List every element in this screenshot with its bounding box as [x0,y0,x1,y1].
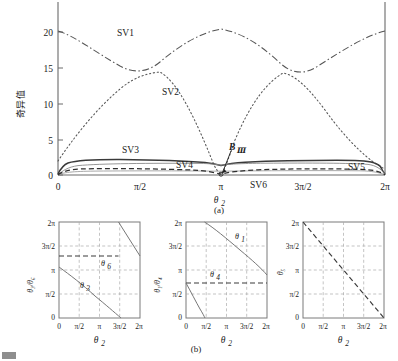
b2-xtick-3pi2: 3π/2 [240,322,254,331]
b2-ytick-pi2: π/2 [172,290,182,299]
main-ylabel: 奇异值 [15,90,26,119]
label-sv4: SV4 [176,160,193,170]
main-xtick-3halfpi: 3π/2 [295,182,312,192]
b3-xtick-pi: π [342,322,346,331]
b1-xtick-2pi: 2π [135,322,143,331]
b3-xticks: 0 π/2 π 3π/2 2π [301,322,387,331]
main-xtick-halfpi: π/2 [134,182,146,192]
b2-xlabel: θ [221,335,226,345]
b1-ylabel: θ₃/θ₆ [26,277,35,293]
b3-ytick-2pi: 2π [291,219,299,228]
b3-ytick-3pi2: 3π/2 [286,242,300,251]
main-x-ticks: 0 π/2 π 3π/2 2π [56,182,390,192]
b1-ytick-0: 0 [51,313,55,322]
b1-xlabel-subscript: 2 [101,339,105,348]
b2-grid [186,222,267,318]
b1-label-theta6-sub: 6 [107,262,111,271]
b2-label-theta4: θ [210,270,214,279]
page-fragment-mark [2,352,16,359]
b2-xlabel-subscript: 2 [228,339,232,348]
b2-ytick-0: 0 [178,313,182,322]
b1-label-theta6: θ [101,259,105,268]
b3-xtick-2pi: 2π [379,322,387,331]
figure-svg: 0 5 10 15 20 0 π/2 π 3π/2 2π 奇异值 θ 2 (a) [0,0,398,361]
b3-xtick-pi2: π/2 [318,322,328,331]
b1-label-theta3-sub: 3 [85,284,90,293]
b3-xlabel-subscript: 2 [345,339,349,348]
b3-ytick-pi2: π/2 [289,290,299,299]
annotation-leader-line [223,151,232,173]
b2-xticks: 0 π/2 π 3π/2 2π [184,322,270,331]
annotation-B-subscript: Ⅲ [236,146,247,155]
b1-ytick-2pi: 2π [47,219,55,228]
label-sv2: SV2 [162,87,179,97]
main-ytick-0: 0 [48,171,53,181]
main-xtick-2pi: 2π [380,182,390,192]
curve-sv2 [58,72,385,174]
b2-label-theta1: θ [235,232,239,241]
caption-b: (b) [191,344,202,354]
label-sv5: SV5 [348,162,365,172]
b1-yticks: 2π 3π/2 π π/2 0 [42,219,56,323]
main-ytick-20: 20 [44,28,54,38]
b1-ytick-pi: π [51,266,55,275]
main-ytick-5: 5 [48,136,53,146]
b1-curve-theta6-branch [119,222,141,256]
b1-ytick-pi2: π/2 [45,290,55,299]
b3-xtick-3pi2: 3π/2 [357,322,371,331]
b1-xlabel: θ [94,335,99,345]
b1-label-theta3: θ [80,281,84,290]
caption-a: (a) [214,205,224,215]
b1-xtick-3pi2: 3π/2 [113,322,127,331]
curve-sv1 [58,29,385,72]
b1-xticks: 0 π/2 π 3π/2 2π [57,322,143,331]
label-sv6: SV6 [250,180,267,190]
b1-xtick-0: 0 [57,322,61,331]
main-xtick-0: 0 [56,182,61,192]
main-plot-panel: 0 5 10 15 20 0 π/2 π 3π/2 2π 奇异值 θ 2 (a) [15,2,390,215]
b2-ytick-3pi2: 3π/2 [169,242,183,251]
b2-ylabel: θ₁/θ₄ [153,277,162,293]
label-sv1: SV1 [117,28,134,38]
b2-xtick-0: 0 [184,322,188,331]
b2-curve-theta4-branch [186,283,205,318]
b2-yticks: 2π 3π/2 π π/2 0 [169,219,183,323]
curve-sv6 [58,169,385,175]
b2-xtick-pi: π [225,322,229,331]
b2-ytick-pi: π [178,266,182,275]
b3-ylabel: θ₅ [276,268,285,275]
main-xlabel: θ [214,195,219,205]
b3-xlabel: θ [338,335,343,345]
b2-xtick-pi2: π/2 [201,322,211,331]
main-ytick-15: 15 [44,64,54,74]
b1-xtick-pi: π [98,322,102,331]
main-ytick-10: 10 [44,100,54,110]
b1-curve-theta3 [59,267,121,318]
subplot-b2: 2π 3π/2 π π/2 0 0 π/2 π 3π/2 2π θ₁/θ₄ θ … [153,219,270,349]
b1-ytick-3pi2: 3π/2 [42,242,56,251]
main-xtick-pi: π [219,182,224,192]
annotation-B-label: B [228,142,235,152]
b3-ytick-pi: π [295,266,299,275]
b3-xtick-0: 0 [301,322,305,331]
b2-label-theta1-sub: 1 [241,235,245,244]
b2-label-theta4-sub: 4 [216,273,220,282]
b3-yticks: 2π 3π/2 π π/2 0 [286,219,300,323]
b3-ytick-0: 0 [295,313,299,322]
b1-xtick-pi2: π/2 [74,322,84,331]
subplot-b3: 2π 3π/2 π π/2 0 0 π/2 π 3π/2 2π θ₅ θ 2 [276,219,387,349]
subplot-b1: 2π 3π/2 π π/2 0 0 π/2 π 3π/2 2π θ₃/θ₆ θ … [26,219,143,349]
b2-xtick-2pi: 2π [262,322,270,331]
label-sv3: SV3 [122,145,139,155]
b2-curve-theta1 [205,222,268,275]
b2-ytick-2pi: 2π [174,219,182,228]
figure-container: 0 5 10 15 20 0 π/2 π 3π/2 2π 奇异值 θ 2 (a) [0,0,398,361]
